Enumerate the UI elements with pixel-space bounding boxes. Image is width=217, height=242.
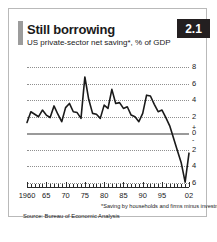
x-axis-major-tick <box>189 182 190 187</box>
x-axis-minor-tick <box>100 184 101 187</box>
chart-source: Source: Bureau of Economic Analysis <box>23 213 120 220</box>
x-axis-minor-tick <box>89 184 90 187</box>
x-axis-minor-tick <box>81 184 82 187</box>
x-axis-major-tick <box>66 182 67 187</box>
chart-number-badge: 2.1 <box>177 19 210 38</box>
x-axis-major-tick <box>27 182 28 187</box>
x-axis-minor-tick <box>54 184 55 187</box>
x-axis-minor-tick <box>174 184 175 187</box>
chart-card: Still borrowing US private-sector net sa… <box>8 8 207 217</box>
x-axis-ticks <box>27 182 189 187</box>
x-axis-minor-tick <box>181 184 182 187</box>
x-axis-tick-label: 02 <box>177 191 201 200</box>
x-axis-minor-tick <box>31 184 32 187</box>
y-axis-minus-sign: - <box>192 136 194 143</box>
x-axis-rule <box>27 187 189 188</box>
x-axis-minor-tick <box>147 184 148 187</box>
y-axis-tick-label: 2 <box>192 146 196 154</box>
y-axis-tick-label: 6 <box>192 179 196 187</box>
x-axis-minor-tick <box>120 184 121 187</box>
x-axis-tick-label: 95 <box>150 191 174 200</box>
series-line-chart <box>27 67 189 183</box>
x-axis-major-tick <box>162 182 163 187</box>
x-axis-minor-tick <box>62 184 63 187</box>
y-axis-tick-label: 4 <box>192 162 196 170</box>
x-axis-minor-tick <box>139 184 140 187</box>
x-axis-minor-tick <box>166 184 167 187</box>
x-axis-major-tick <box>85 182 86 187</box>
x-axis-minor-tick <box>77 184 78 187</box>
x-axis-minor-tick <box>112 184 113 187</box>
y-axis-tick-label: 4 <box>192 96 196 104</box>
y-axis-tick-label: 8 <box>192 63 196 71</box>
x-axis-major-tick <box>123 182 124 187</box>
x-axis-minor-tick <box>58 184 59 187</box>
x-axis-major-tick <box>104 182 105 187</box>
x-axis-minor-tick <box>177 184 178 187</box>
chart-footnote: *Saving by households and firms minus in… <box>101 203 217 210</box>
series-path-0 <box>27 77 189 182</box>
x-axis-minor-tick <box>35 184 36 187</box>
x-axis-minor-tick <box>93 184 94 187</box>
plot-area <box>27 67 189 183</box>
x-axis-minor-tick <box>50 184 51 187</box>
y-axis-plus-sign: + <box>192 124 196 131</box>
x-axis-major-tick <box>143 182 144 187</box>
x-axis-minor-tick <box>96 184 97 187</box>
y-axis-labels: 86420246+- <box>192 67 214 187</box>
x-axis-minor-tick <box>150 184 151 187</box>
y-axis-tick-label: 6 <box>192 80 196 88</box>
accent-bar <box>18 21 23 45</box>
chart-subtitle: US private-sector net saving*, % of GDP <box>27 38 171 48</box>
x-axis-minor-tick <box>158 184 159 187</box>
page-title: Still borrowing <box>27 22 115 37</box>
x-axis-minor-tick <box>73 184 74 187</box>
x-axis-minor-tick <box>39 184 40 187</box>
x-axis-minor-tick <box>135 184 136 187</box>
x-axis-minor-tick <box>131 184 132 187</box>
x-axis-minor-tick <box>69 184 70 187</box>
x-axis-minor-tick <box>127 184 128 187</box>
x-axis-minor-tick <box>170 184 171 187</box>
y-axis-tick-label: 2 <box>192 113 196 121</box>
x-axis-minor-tick <box>108 184 109 187</box>
x-axis-major-tick <box>46 182 47 187</box>
x-axis-labels: 19606570758085909502 <box>17 191 217 203</box>
x-axis-minor-tick <box>42 184 43 187</box>
x-axis-minor-tick <box>116 184 117 187</box>
x-axis-minor-tick <box>154 184 155 187</box>
x-axis-minor-tick <box>185 184 186 187</box>
chart-page: Still borrowing US private-sector net sa… <box>0 0 217 242</box>
